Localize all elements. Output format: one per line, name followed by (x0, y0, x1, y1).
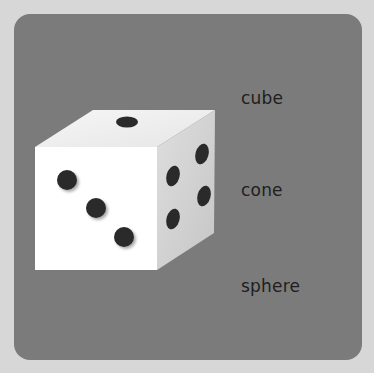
pip-front-3 (114, 227, 134, 247)
option-sphere[interactable]: sphere (241, 278, 300, 295)
pip-front-1 (57, 170, 77, 190)
die-illustration (0, 0, 374, 373)
pip-front-2 (86, 198, 106, 218)
option-cone[interactable]: cone (241, 182, 283, 199)
option-cube[interactable]: cube (241, 90, 283, 107)
pip-top (116, 117, 138, 128)
